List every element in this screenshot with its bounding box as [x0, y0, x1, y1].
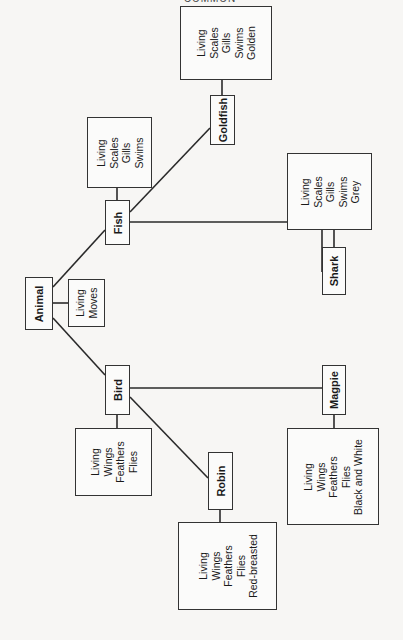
node-animal: Animal — [25, 277, 53, 330]
magpie-attributes-box: Living Wings Feathers Flies Black and Wh… — [287, 428, 379, 525]
magpie-attributes: Living Wings Feathers Flies Black and Wh… — [302, 439, 365, 515]
node-magpie: Magpie — [322, 365, 346, 415]
node-goldfish: Goldfish — [210, 95, 235, 145]
shark-attributes: Living Scales Gills Swims Grey — [298, 176, 361, 208]
animal-attributes: Living Moves — [74, 288, 99, 319]
fish-attributes: Living Scales Gills Swims — [94, 137, 144, 169]
node-shark: Shark — [322, 247, 346, 295]
bird-attributes-box: Living Wings Feathers Flies — [75, 428, 152, 496]
node-bird: Bird — [105, 365, 130, 415]
robin-attributes-box: Living Wings Feathers Flies Red-breasted — [178, 522, 277, 610]
shark-attributes-box: Living Scales Gills Swims Grey — [287, 153, 372, 230]
node-fish: Fish — [105, 200, 130, 245]
goldfish-attributes: Living Scales Gills Swims Golden — [195, 26, 258, 60]
robin-attributes: Living Wings Feathers Flies Red-breasted — [196, 534, 259, 598]
fish-attributes-box: Living Scales Gills Swims — [87, 117, 152, 188]
animal-attributes-box: Living Moves — [68, 279, 105, 327]
goldfish-attributes-box: Living Scales Gills Swims Golden — [180, 6, 272, 80]
bird-attributes: Living Wings Feathers Flies — [88, 441, 138, 482]
node-robin: Robin — [208, 452, 233, 510]
